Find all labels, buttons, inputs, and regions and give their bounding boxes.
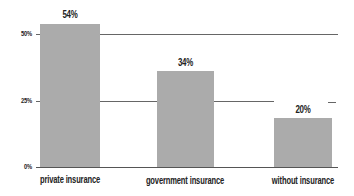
bar-private-insurance bbox=[40, 24, 100, 167]
gridline-25-segment-1 bbox=[100, 101, 157, 102]
y-tick-25: 25% bbox=[3, 96, 32, 105]
x-label-government-insurance: government insurance bbox=[142, 174, 228, 186]
x-axis-baseline bbox=[36, 167, 338, 168]
gridline-50 bbox=[100, 34, 338, 35]
y-tick-0: 0% bbox=[3, 162, 32, 171]
bar-without-insurance bbox=[274, 118, 332, 167]
x-label-without-insurance: without insurance bbox=[260, 174, 346, 186]
gridline-25-segment-2 bbox=[214, 101, 274, 102]
x-label-private-insurance: private insurance bbox=[27, 173, 113, 185]
y-tick-50: 50% bbox=[3, 29, 32, 38]
bar-government-insurance bbox=[157, 71, 214, 167]
gridline-25-right-tick bbox=[328, 102, 336, 103]
bar-chart: 50% 25% 0% 54% 34% 20% private insurance… bbox=[0, 0, 354, 196]
value-label-without-insurance: 20% bbox=[282, 103, 324, 115]
value-label-government-insurance: 34% bbox=[165, 56, 206, 68]
value-label-private-insurance: 54% bbox=[48, 8, 91, 20]
